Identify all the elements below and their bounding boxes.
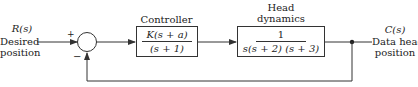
summing-junction-circle [78,33,97,52]
controller-block: K(s + a) (s + 1) [136,26,198,57]
output-label-line1: Data head [372,36,418,47]
plant-numerator: 1 [256,29,306,42]
plus-sign: + [67,29,75,40]
controller-denominator: (s + 1) [146,42,188,54]
input-label-line1: Desired [0,36,38,47]
output-label-line2: position [372,47,418,58]
output-signal-label: C(s) [372,24,418,35]
controller-transfer-function: K(s + a) (s + 1) [137,27,197,56]
plant-title-line1: Head [237,2,325,13]
plant-block: 1 s(s + 2) (s + 3) [237,26,325,57]
controller-numerator: K(s + a) [142,29,191,42]
diagram-wires [0,0,418,87]
controller-title: Controller [136,14,197,25]
plant-denominator: s(s + 2) (s + 3) [239,42,323,54]
minus-sign: − [73,51,81,62]
feedback-control-diagram: R(s) Desired position + − Controller K(s… [0,0,418,87]
plant-title-line2: dynamics [237,13,325,24]
input-label-line2: position [0,47,38,58]
input-signal-label: R(s) [8,23,36,34]
plant-transfer-function: 1 s(s + 2) (s + 3) [238,27,324,56]
